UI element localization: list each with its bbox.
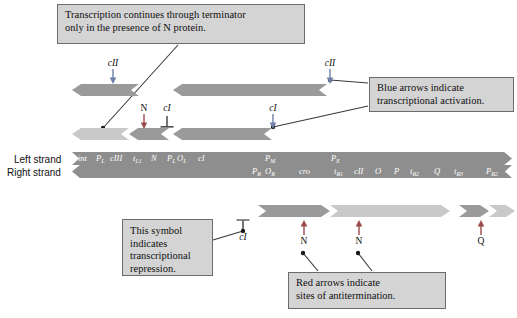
annotation-cI-repressor-lower: cI <box>231 218 255 246</box>
annotation-Q-lower: Q <box>470 220 492 248</box>
red-up-arrow-icon <box>355 220 364 235</box>
callout-terminator: Transcription continues through terminat… <box>57 4 305 44</box>
gene-right-tR1: tR1 <box>334 166 343 176</box>
annotation-cI-upper-right-label: cI <box>269 103 276 113</box>
callout-terminator-line1: Transcription continues through terminat… <box>65 9 298 22</box>
gene-subscript: R3 <box>456 171 463 177</box>
figure-canvas: Transcription continues through terminat… <box>0 0 517 318</box>
gene-right-cII: cII <box>354 166 363 176</box>
repression-t-symbol-icon <box>236 218 251 231</box>
gene-left-cI: cI <box>198 153 205 163</box>
transcript-leader-light <box>72 128 129 140</box>
transcript-cI-upper <box>173 128 272 140</box>
gene-right-tR4: tR4 <box>510 166 517 176</box>
gene-right-tR3: tR3 <box>454 166 463 176</box>
red-up-arrow-icon <box>300 220 309 235</box>
gene-left-PE: PE <box>331 153 340 163</box>
annotation-cI-repressor-upper: cI <box>155 103 179 128</box>
gene-left-cIII: cIII <box>110 153 122 163</box>
transcript-lower-dark-1 <box>258 205 330 217</box>
annotation-cII-upper-left: cII <box>100 58 126 84</box>
callout-repression-line1: This symbol <box>130 225 206 238</box>
transcript-lower-light-2 <box>489 205 515 217</box>
gene-subscript: E <box>336 158 340 164</box>
annotation-N-upper: N <box>133 103 155 128</box>
annotation-Q-lower-label: Q <box>478 236 485 246</box>
annotation-cI-repressor-lower-label: cI <box>239 232 246 242</box>
annotation-N-lower-2-label: N <box>356 236 363 246</box>
left-strand-gene-labels: intPLcIIItL1NPLOLcIPMPE <box>72 152 512 165</box>
gene-left-tL1: tL1 <box>133 153 142 163</box>
callout-blue-line2: transcriptional activation. <box>377 95 507 108</box>
gene-subscript: R1 <box>336 171 343 177</box>
callout-repression: This symbol indicates transcriptional re… <box>122 219 213 276</box>
gene-right-O: O <box>375 166 381 176</box>
callout-terminator-line2: only in the presence of N protein. <box>65 22 298 35</box>
gene-left-OL: OL <box>177 153 186 163</box>
gene-right-tR2: tR2 <box>410 166 419 176</box>
gene-subscript: R2 <box>491 171 498 177</box>
gene-subscript: L <box>183 158 186 164</box>
gene-left-N: N <box>151 153 157 163</box>
annotation-cI-upper-right: cI <box>261 103 285 128</box>
right-strand-gene-labels: PRORcrotR1cIIOPtR2QtR3PR2tR4S <box>72 165 512 178</box>
callout-red-line1: Red arrows indicate <box>296 277 439 290</box>
callout-repression-line2: indicates <box>130 238 206 251</box>
annotation-N-upper-label: N <box>141 103 148 113</box>
gene-right-Q: Q <box>434 166 440 176</box>
annotation-cII-upper-right: cII <box>317 58 343 84</box>
gene-left-PL: PL <box>167 153 176 163</box>
gene-subscript: R <box>271 171 275 177</box>
annotation-N-lower-2: N <box>348 220 370 248</box>
gene-right-PR: PR <box>252 166 261 176</box>
annotation-cII-upper-left-label: cII <box>108 58 119 68</box>
blue-down-arrow-icon <box>326 69 335 84</box>
gene-right-PR2: PR2 <box>486 166 498 176</box>
annotation-N-lower-1: N <box>293 220 315 248</box>
gene-subscript: R <box>257 171 261 177</box>
gene-subscript: L <box>101 158 104 164</box>
annotation-N-lower-1-label: N <box>301 236 308 246</box>
repression-t-symbol-icon <box>160 116 175 128</box>
transcript-left-short-upper <box>72 84 139 96</box>
gene-left-PM: PM <box>265 153 275 163</box>
gene-left-PL: PL <box>96 153 105 163</box>
right-strand-label: Right strand <box>7 167 61 178</box>
callout-repression-line3: transcriptional <box>130 250 206 263</box>
blue-down-arrow-icon <box>109 69 118 84</box>
transcript-lower-dark-2 <box>459 205 489 217</box>
gene-subscript: L <box>172 158 175 164</box>
annotation-cI-repressor-upper-label: cI <box>163 103 170 113</box>
callout-blue-line1: Blue arrows indicate <box>377 82 507 95</box>
transcript-lower-light-1 <box>330 205 450 217</box>
callout-blue-arrows: Blue arrows indicate transcriptional act… <box>369 77 514 112</box>
red-down-arrow-icon <box>140 114 149 129</box>
gene-subscript: L1 <box>135 158 141 164</box>
gene-subscript: R4 <box>512 171 517 177</box>
gene-subscript: R2 <box>412 171 419 177</box>
red-up-arrow-icon <box>477 220 486 235</box>
gene-right-cro: cro <box>299 166 310 176</box>
callout-red-arrows: Red arrows indicate sites of antitermina… <box>288 272 446 309</box>
transcript-right-long-upper <box>173 84 327 96</box>
callout-repression-line4: repression. <box>130 263 206 276</box>
gene-right-P: P <box>394 166 399 176</box>
callout-red-line2: sites of antitermination. <box>296 290 439 303</box>
gene-right-OR: OR <box>265 166 275 176</box>
annotation-cII-upper-right-label: cII <box>325 58 336 68</box>
blue-down-arrow-icon <box>269 114 278 129</box>
gene-left-int: int <box>78 153 87 163</box>
transcript-leader-dark <box>129 128 169 140</box>
gene-subscript: M <box>270 158 275 164</box>
left-strand-label: Left strand <box>14 154 61 165</box>
